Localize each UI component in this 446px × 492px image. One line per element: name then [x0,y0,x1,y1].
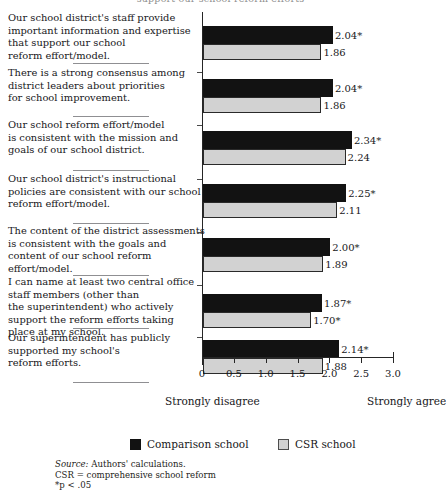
bar-value-label-comparison-school: 2.04* [335,84,362,94]
category-label-line: Our school district's staff provide [8,12,198,25]
gray-square-icon [278,439,289,450]
statement-separator [73,275,149,276]
category-label-line: Our school district's instructional [8,173,198,186]
category-label-line: is consistent with the goals and [8,238,198,251]
statement-separator [73,116,149,117]
bar-value-label-comparison-school: 2.04* [335,31,362,41]
category-label: Our school district's instructionalpolic… [8,173,198,211]
statement-separator [73,328,149,329]
category-label-line: goals of our school district. [8,144,198,157]
bar-value-label-csr-school: 1.86 [323,101,345,111]
bar-value-label-csr-school: 1.86 [323,48,345,58]
bar-csr-school [203,312,311,328]
category-tick [197,72,202,73]
x-axis-tick-label: 2.5 [353,368,369,379]
axis-anchor-low: Strongly disagree [165,395,260,407]
bar-value-label-comparison-school: 1.87* [324,299,351,309]
category-tick [197,179,202,180]
category-label-line: I can name at least two central office [8,276,198,289]
x-axis-tick [393,358,394,363]
x-axis-tick-label: 1.5 [290,368,306,379]
legend-item-csr-school: CSR school [278,438,356,450]
category-label: I can name at least two central officest… [8,276,198,339]
source-value: Authors' calculations. [89,459,186,469]
bar-value-label-csr-school: 2.24 [348,153,370,163]
x-axis-tick [361,358,362,363]
clipped-title-text: support our school reform efforts [0,0,441,4]
source-label: Source: [55,459,89,469]
bar-csr-school [203,202,337,218]
category-label-line: important information and expertise [8,25,198,38]
category-tick [197,285,202,286]
category-label-line: supported my school's [8,345,198,358]
x-axis-tick [234,358,235,363]
category-label: The content of the district assessmentsi… [8,225,198,275]
x-axis-tick [202,358,203,363]
legend-label-comparison-school: Comparison school [147,438,249,450]
x-axis-tick-label: 3.0 [385,368,401,379]
category-label-line: effort/model. [8,263,198,276]
x-axis-tick-label: 2.0 [321,368,337,379]
statement-separator [73,223,149,224]
category-label-line: reform effort/model. [8,50,198,63]
significance-note: *p < .05 [55,480,435,491]
category-label-line: policies are consistent with our school [8,186,198,199]
statement-separator [73,63,149,64]
bar-value-label-csr-school: 2.11 [339,206,361,216]
bar-comparison-school [203,184,346,202]
abbreviation-note: CSR = comprehensive school reform [55,470,435,481]
bar-comparison-school [203,340,339,358]
category-label-line: The content of the district assessments [8,225,198,238]
plot-area: Our school district's staff provideimpor… [0,10,441,365]
category-label-line: the superintendent) who actively [8,301,198,314]
bar-comparison-school [203,294,322,312]
legend-item-comparison-school: Comparison school [130,438,249,450]
category-label-line: for school improvement. [8,92,198,105]
bar-value-label-comparison-school: 2.34* [354,136,381,146]
category-label-line: staff members (other than [8,289,198,302]
category-tick [197,337,202,338]
bar-value-label-comparison-school: 2.14* [341,345,368,355]
source-note: Source: Authors' calculations. [55,459,435,470]
category-label-line: Our school reform effort/model [8,119,198,132]
legend-label-csr-school: CSR school [295,438,356,450]
category-label: There is a strong consensus amongdistric… [8,67,198,105]
category-label: Our school district's staff provideimpor… [8,12,198,62]
category-label-line: is consistent with the mission and [8,132,198,145]
legend: Comparison school CSR school [0,438,441,454]
bar-value-label-csr-school: 1.89 [325,260,347,270]
black-square-icon [130,439,141,450]
bar-csr-school [203,149,346,165]
bar-comparison-school [203,26,333,44]
x-axis-tick-label: 0 [199,368,205,379]
category-label: Our school reform effort/modelis consist… [8,119,198,157]
category-tick [197,125,202,126]
category-label-line: Our superintendent has publicly [8,332,198,345]
category-label-line: There is a strong consensus among [8,67,198,80]
bar-value-label-comparison-school: 2.25* [348,189,375,199]
statement-separator [73,170,149,171]
x-axis-tick [329,358,330,363]
x-axis-tick [266,358,267,363]
category-label-line: that support our school [8,37,198,50]
bar-comparison-school [203,131,352,149]
category-label-line: support the reform efforts taking [8,314,198,327]
x-axis-tick-label: 1.0 [258,368,274,379]
bar-csr-school [203,256,323,272]
x-axis-tick-label: 0.5 [226,368,242,379]
x-axis-tick [298,358,299,363]
bar-value-label-csr-school: 1.70* [313,316,340,326]
bar-value-label-comparison-school: 2.00* [332,243,359,253]
bar-comparison-school [203,238,330,256]
category-label-line: reform effort/model. [8,198,198,211]
category-tick [197,232,202,233]
category-label-line: district leaders about priorities [8,80,198,93]
bar-csr-school [203,44,321,60]
bar-comparison-school [203,79,333,97]
category-label-line: content of our school reform [8,250,198,263]
x-axis: 00.51.01.52.02.53.0 [0,357,441,397]
bar-csr-school [203,97,321,113]
axis-anchor-high: Strongly agree [367,395,446,407]
figure-notes: Source: Authors' calculations. CSR = com… [55,459,435,491]
